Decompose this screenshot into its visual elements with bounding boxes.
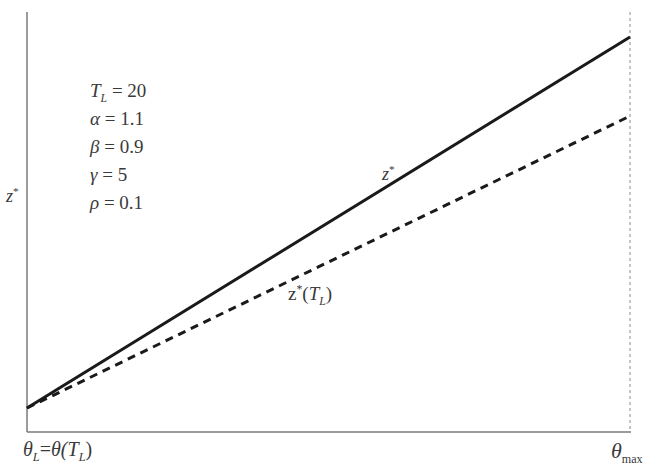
x-tick-label-theta-max: θmax — [611, 438, 643, 467]
x-tick-label-theta-L: θL=θ(TL) — [23, 438, 92, 465]
z-star-TL-line-label: z*(TL) — [288, 283, 332, 309]
param-TL: TL = 20 — [90, 77, 146, 105]
parameter-list: TL = 20 α = 1.1 β = 0.9 γ = 5 ρ = 0.1 — [90, 77, 146, 217]
param-rho: ρ = 0.1 — [90, 189, 146, 217]
chart-canvas — [0, 0, 648, 472]
z-star-line-label: z* — [382, 163, 395, 185]
param-gamma: γ = 5 — [90, 161, 146, 189]
param-alpha: α = 1.1 — [90, 105, 146, 133]
y-axis-label: z* — [6, 185, 19, 207]
param-beta: β = 0.9 — [90, 133, 146, 161]
